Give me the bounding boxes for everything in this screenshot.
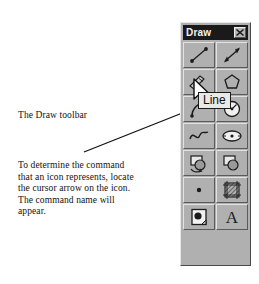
figure-page: The Draw toolbar To determine the comman… — [0, 0, 259, 284]
ellipse-icon — [220, 125, 244, 147]
tool-button-spline[interactable] — [183, 123, 215, 149]
hatch-icon — [220, 179, 244, 201]
toolbar-icon-grid: A — [183, 42, 248, 230]
polyline-icon — [187, 71, 211, 93]
tool-button-line[interactable] — [183, 42, 215, 68]
construction-line-icon — [220, 44, 244, 66]
region-icon — [187, 206, 211, 228]
tool-button-construction-line[interactable] — [216, 42, 248, 68]
line-icon — [187, 44, 211, 66]
toolbar-title: Draw — [186, 27, 211, 38]
tool-button-make-block[interactable] — [216, 150, 248, 176]
caption-tooltip-instructions: To determine the command that an icon re… — [18, 160, 134, 218]
caption-draw-toolbar: The Draw toolbar — [18, 110, 87, 122]
polygon-icon — [220, 71, 244, 93]
tool-button-ellipse[interactable] — [216, 123, 248, 149]
draw-toolbar-window: Draw — [180, 22, 251, 266]
tool-button-point[interactable] — [183, 177, 215, 203]
make-block-icon — [220, 152, 244, 174]
tool-button-region[interactable] — [183, 204, 215, 230]
toolbar-titlebar[interactable]: Draw — [183, 25, 248, 40]
tool-button-multiline-text[interactable]: A — [216, 204, 248, 230]
tooltip-line: Line — [198, 92, 231, 109]
close-icon[interactable] — [234, 27, 246, 38]
text-a-icon: A — [226, 209, 238, 226]
spline-icon — [187, 125, 211, 147]
insert-block-icon — [187, 152, 211, 174]
tool-button-insert-block[interactable] — [183, 150, 215, 176]
point-icon — [187, 179, 211, 201]
tool-button-hatch[interactable] — [216, 177, 248, 203]
